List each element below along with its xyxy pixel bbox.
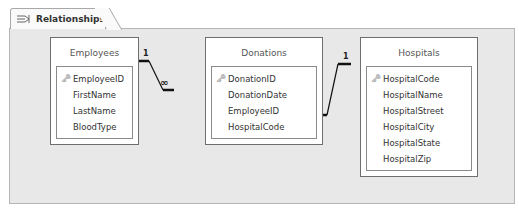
table-title: Donations <box>206 48 322 62</box>
field-item[interactable]: FirstName <box>73 87 132 103</box>
field-item[interactable]: HospitalCity <box>383 119 471 135</box>
tab-relationships[interactable]: Relationships <box>10 8 106 29</box>
field-item[interactable]: HospitalZip <box>383 151 471 167</box>
tab-label: Relationships <box>36 14 105 24</box>
field-item[interactable]: EmployeeID <box>228 103 316 119</box>
field-list[interactable]: 🗝HospitalCode HospitalName HospitalStree… <box>366 66 472 171</box>
field-item[interactable]: DonationDate <box>228 87 316 103</box>
table-donations[interactable]: Donations 🗝DonationID DonationDate Emplo… <box>205 37 323 145</box>
table-title: Employees <box>51 48 138 62</box>
field-item[interactable]: HospitalStreet <box>383 103 471 119</box>
relationships-icon <box>17 14 31 24</box>
primary-key-icon: 🗝 <box>61 71 71 87</box>
table-title: Hospitals <box>361 48 477 62</box>
table-hospitals[interactable]: Hospitals 🗝HospitalCode HospitalName Hos… <box>360 37 478 177</box>
primary-key-icon: 🗝 <box>371 71 381 87</box>
primary-key-icon: 🗝 <box>216 71 226 87</box>
field-list[interactable]: 🗝DonationID DonationDate EmployeeID Hosp… <box>211 66 317 139</box>
field-item[interactable]: LastName <box>73 103 132 119</box>
relationships-canvas[interactable]: 1 ∞ 1 ∞ Employees 🗝EmployeeID FirstName … <box>9 28 515 204</box>
field-item[interactable]: 🗝HospitalCode <box>383 71 471 87</box>
field-item[interactable]: 🗝DonationID <box>228 71 316 87</box>
relationship-many-label: ∞ <box>160 77 168 88</box>
field-item[interactable]: BloodType <box>73 119 132 135</box>
relationship-one-label: 1 <box>143 49 149 58</box>
field-item[interactable]: HospitalCode <box>228 119 316 135</box>
field-list[interactable]: 🗝EmployeeID FirstName LastName BloodType <box>56 66 133 139</box>
field-item[interactable]: HospitalName <box>383 87 471 103</box>
relationship-one-label: 1 <box>343 52 349 61</box>
table-employees[interactable]: Employees 🗝EmployeeID FirstName LastName… <box>50 37 139 145</box>
field-item[interactable]: 🗝EmployeeID <box>73 71 132 87</box>
field-item[interactable]: HospitalState <box>383 135 471 151</box>
